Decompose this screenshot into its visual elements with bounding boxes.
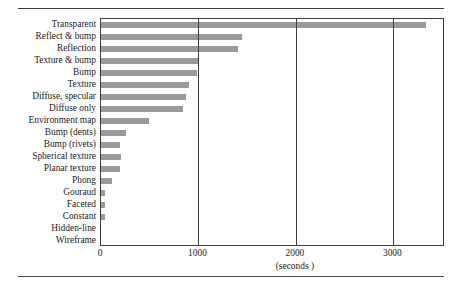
category-label: Environment map [0,115,96,125]
category-label: Texture & bump [0,55,96,65]
bar [101,154,121,160]
category-label: Bump [0,67,96,77]
category-label-column: TransparentReflect & bumpReflectionTextu… [0,18,96,246]
plot-frame [100,18,444,246]
category-label: Bump (rivets) [0,139,96,149]
category-label: Diffuse only [0,103,96,113]
category-label: Wireframe [0,235,96,245]
category-label: Bump (dents) [0,127,96,137]
gridline [198,19,199,245]
bar [101,142,120,148]
x-tick-label: 0 [98,248,103,258]
bar [101,34,242,40]
bar-chart-figure: TransparentReflect & bumpReflectionTextu… [0,0,462,285]
bar [101,106,183,112]
bar [101,202,105,208]
x-axis-tick-labels: 0100020003000 [0,248,462,264]
x-tick-label: 3000 [383,248,402,258]
category-label: Texture [0,79,96,89]
category-label: Constant [0,211,96,221]
gridline [393,19,394,245]
category-label: Diffuse, specular [0,91,96,101]
bar [101,58,198,64]
category-label: Hidden-line [0,223,96,233]
category-label: Reflect & bump [0,31,96,41]
bar [101,22,426,28]
category-label: Faceted [0,199,96,209]
category-label: Reflection [0,43,96,53]
bar [101,46,238,52]
bar [101,94,186,100]
x-tick-label: 2000 [286,248,305,258]
x-tick-label: 1000 [188,248,207,258]
category-label: Phong [0,175,96,185]
bar [101,130,126,136]
x-axis-title: (seconds ) [276,261,314,271]
plot-area [101,19,443,245]
bar [101,214,105,220]
bar [101,166,120,172]
category-label: Transparent [0,19,96,29]
category-label: Planar texture [0,163,96,173]
bar [101,70,197,76]
gridline [296,19,297,245]
bar [101,190,105,196]
bar [101,118,149,124]
category-label: Gouraud [0,187,96,197]
category-label: Spherical texture [0,151,96,161]
bar [101,82,189,88]
page-rule-bottom [18,276,444,277]
bar [101,178,112,184]
